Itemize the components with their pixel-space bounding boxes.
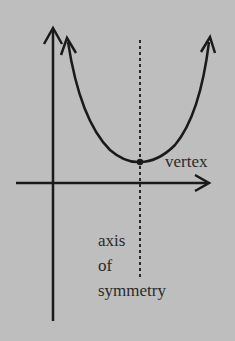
axis-label-line3: symmetry: [98, 281, 166, 300]
axis-label-line2: of: [98, 256, 113, 275]
x-axis: [16, 175, 209, 191]
parabola-curve: [61, 37, 215, 162]
vertex-point: [137, 159, 143, 165]
axis-label-line1: axis: [98, 231, 125, 250]
diagram-svg: vertex axis of symmetry: [0, 0, 235, 341]
y-axis: [44, 28, 62, 321]
vertex-label: vertex: [165, 152, 208, 171]
parabola-diagram: vertex axis of symmetry: [0, 0, 235, 341]
